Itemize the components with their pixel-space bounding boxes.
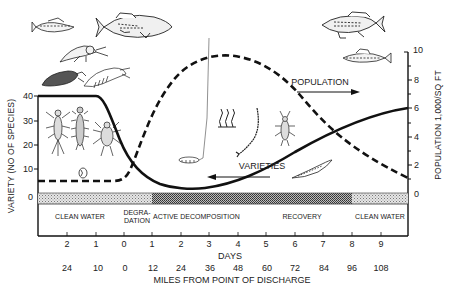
mile-label: 108 [373, 263, 388, 273]
day-label: 9 [378, 239, 383, 249]
river-pollution-diagram: 40 30 20 10 0 VARIETY (NO OF SPECIES) 10… [0, 0, 449, 287]
dragonfly-nymph-icon [275, 111, 295, 146]
day-label: 1 [93, 239, 98, 249]
zone-recovery: RECOVERY [282, 213, 321, 220]
varieties-label: VARIETIES [239, 161, 285, 171]
day-label: 2 [178, 239, 183, 249]
day-label: 4 [235, 239, 240, 249]
arrow-left-icon [207, 174, 216, 180]
zone-labels: CLEAN WATER DEGRA- DATION ACTIVE DECOMPO… [55, 209, 405, 224]
dragonfly-nymph-icon [93, 122, 121, 156]
zone-degradation-line1: DEGRA- [123, 209, 151, 216]
mile-label: 96 [347, 263, 357, 273]
sludgeworm-icon [218, 109, 236, 127]
left-tick-0: 0 [28, 192, 33, 202]
day-label: 7 [320, 239, 325, 249]
right-tick-6: 6 [414, 103, 419, 113]
mile-label: 60 [262, 263, 272, 273]
zone-active-decomposition: ACTIVE DECOMPOSITION [153, 213, 240, 220]
left-axis: 40 30 20 10 0 VARIETY (NO OF SPECIES) [6, 91, 38, 213]
mile-label: 12 [148, 263, 158, 273]
day-label: 8 [349, 239, 354, 249]
arrow-right-icon [351, 89, 360, 95]
bass-icon [96, 13, 172, 38]
mile-tick-labels: 24 10 0 12 24 36 48 60 72 84 96 108 MILE… [62, 263, 389, 285]
day-label: 3 [206, 239, 211, 249]
leech-icon [292, 160, 332, 178]
stonefly-nymph-icon [71, 107, 89, 150]
mile-label: 36 [205, 263, 215, 273]
zone-clean-water-right: CLEAN WATER [355, 213, 405, 220]
mayfly-larva-icon [46, 110, 70, 156]
day-label: 2 [64, 239, 69, 249]
snail-icon [79, 168, 87, 178]
mile-label: 72 [290, 263, 300, 273]
varieties-curve [38, 96, 408, 189]
mile-label: 84 [319, 263, 329, 273]
bass-icon [322, 12, 385, 38]
population-label: POPULATION [291, 77, 348, 87]
varieties-annotation: VARIETIES [207, 161, 285, 180]
left-tick-10: 10 [23, 164, 33, 174]
right-tick-2: 2 [414, 160, 419, 170]
day-label: 0 [121, 239, 126, 249]
rat-tailed-maggot-icon [179, 38, 209, 163]
right-tick-10: 10 [413, 45, 423, 55]
crayfish-icon [60, 46, 108, 62]
zone-band [38, 193, 408, 204]
shrimp-icon [84, 68, 130, 88]
zone-degradation-line2: DATION [124, 217, 150, 224]
day-label: 6 [292, 239, 297, 249]
fish-icon [343, 49, 391, 63]
day-label: 1 [149, 239, 154, 249]
mile-label: 24 [176, 263, 186, 273]
mile-label: 48 [233, 263, 243, 273]
right-axis: 10 8 6 4 2 0 POPULATION 1,000/SQ FT [404, 45, 443, 199]
right-tick-8: 8 [414, 75, 419, 85]
mile-label: 0 [122, 263, 127, 273]
left-tick-20: 20 [23, 140, 33, 150]
day-label: 5 [263, 239, 268, 249]
left-tick-30: 30 [23, 116, 33, 126]
fish-icon [32, 18, 74, 32]
miles-title: MILES FROM POINT OF DISCHARGE [154, 275, 311, 285]
right-tick-0: 0 [414, 189, 419, 199]
mile-label: 10 [93, 263, 103, 273]
left-axis-title: VARIETY (NO OF SPECIES) [6, 99, 16, 213]
right-axis-title: POPULATION 1,000/SQ FT [433, 70, 443, 180]
mile-label: 24 [62, 263, 72, 273]
population-curve [38, 55, 408, 181]
zone-clean-water-left: CLEAN WATER [55, 213, 105, 220]
days-title: DAYS [218, 251, 242, 261]
day-tick-labels: 2 1 0 1 2 3 4 5 6 7 8 9 DAYS [64, 239, 383, 261]
population-annotation: POPULATION [291, 77, 360, 95]
midge-larva-icon [236, 108, 258, 157]
left-tick-40: 40 [23, 91, 33, 101]
right-tick-4: 4 [414, 132, 419, 142]
beetle-icon [42, 71, 86, 86]
